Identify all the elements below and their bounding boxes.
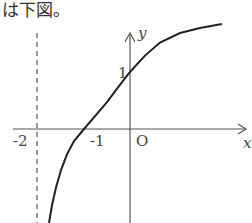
graph: -2 -1 O 1 x y <box>0 0 252 223</box>
y-axis-label: y <box>137 24 147 42</box>
y-tick-label: 1 <box>118 64 128 82</box>
origin-label: O <box>136 132 148 150</box>
x-axis-label: x <box>243 134 252 152</box>
asymptote-label: -2 <box>13 132 28 150</box>
log-curve <box>49 24 222 223</box>
x-tick-label: -1 <box>90 132 105 150</box>
